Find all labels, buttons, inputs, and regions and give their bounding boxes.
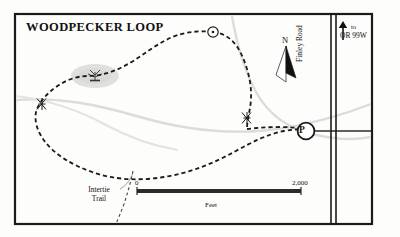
- to-prefix-label: to: [351, 24, 356, 31]
- north-arrow-label: N: [282, 36, 288, 45]
- intertie-trail-label: Intertie Trail: [78, 186, 120, 203]
- to-destination-label: OR 99W: [340, 32, 367, 40]
- map-figure: WOODPECKER LOOP N Finley Road to OR 99W …: [0, 0, 400, 237]
- parking-symbol-label: P: [299, 126, 305, 136]
- scale-bar-segment-2: [219, 189, 301, 193]
- intertie-trail-label-line2: Trail: [92, 194, 106, 203]
- scale-bar-segment-1: [137, 189, 219, 193]
- map-title: WOODPECKER LOOP: [26, 21, 164, 34]
- scale-bar-units-label: Feet: [205, 202, 217, 209]
- scale-bar-min-label: 0: [135, 180, 139, 187]
- finley-road-label: Finley Road: [296, 25, 304, 62]
- viewpoint-circle-icon: [208, 27, 218, 37]
- scale-bar-max-label: 2,000: [292, 180, 308, 187]
